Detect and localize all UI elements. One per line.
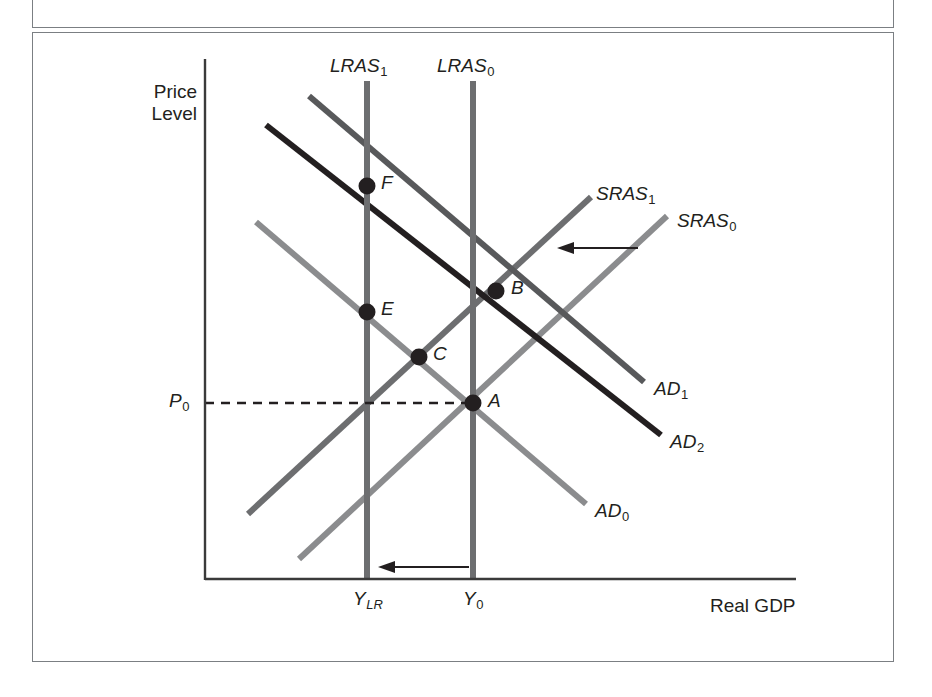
curve-label-sras0: SRAS0 [677,210,736,232]
curve-label-ad0: AD0 [595,500,629,522]
y-axis-title-line2: Level [129,103,197,125]
point-label-c: C [433,343,447,365]
curve-label-lras1-base: LRAS [330,55,380,76]
curve-label-sras0-sub: 0 [729,219,736,234]
point-dot-c [411,349,428,366]
curve-label-sras0-base: SRAS [677,210,729,231]
point-label-a: A [488,390,501,412]
figure-frame: Price Level Real GDP LRAS1 LRAS0 SRAS1 S… [32,32,894,662]
curve-label-sras1-sub: 1 [648,192,655,207]
as-ad-diagram [33,33,893,661]
curve-label-ad0-base: AD [595,500,621,521]
point-dot-a [465,395,482,412]
curve-label-ad2-base: AD [670,431,696,452]
curve-label-sras1-base: SRAS [596,183,648,204]
point-dot-e [359,304,376,321]
curve-label-ad1-base: AD [654,378,680,399]
curve-label-ad2: AD2 [670,431,704,453]
upper-page-border [32,0,894,28]
y-tick-label-p0: P0 [169,390,189,412]
x-axis-title: Real GDP [710,595,796,617]
x-tick-label-ylr: YLR [353,588,382,610]
curve-label-lras1: LRAS1 [330,55,387,77]
curve-label-lras0-sub: 0 [487,64,494,79]
curve-label-ad1-sub: 1 [681,387,688,402]
curve-label-lras0-base: LRAS [437,55,487,76]
y-axis-title-line1: Price [129,81,197,103]
point-label-f: F [381,172,393,194]
figure-page: Price Level Real GDP LRAS1 LRAS0 SRAS1 S… [0,0,932,697]
curve-label-sras1: SRAS1 [596,183,655,205]
curve-label-lras1-sub: 1 [380,64,387,79]
curve-label-ad2-sub: 2 [697,440,704,455]
curve-label-ad1: AD1 [654,378,688,400]
x-tick-ylr-sub: LR [366,597,383,612]
curve-ad1 [309,96,644,382]
point-dot-b [488,283,505,300]
x-tick-label-y0: Y0 [463,588,483,610]
point-dot-f [359,178,376,195]
x-tick-y0-sub: 0 [476,597,483,612]
y-axis-title: Price Level [129,81,197,126]
curve-label-ad0-sub: 0 [622,509,629,524]
y-tick-p0-base: P [169,390,182,411]
x-tick-y0-base: Y [463,588,476,609]
curve-label-lras0: LRAS0 [437,55,494,77]
x-tick-ylr-base: Y [353,588,366,609]
point-label-e: E [381,298,394,320]
lras-shift-arrow [378,561,469,573]
point-label-b: B [511,277,524,299]
y-tick-p0-sub: 0 [182,399,189,414]
